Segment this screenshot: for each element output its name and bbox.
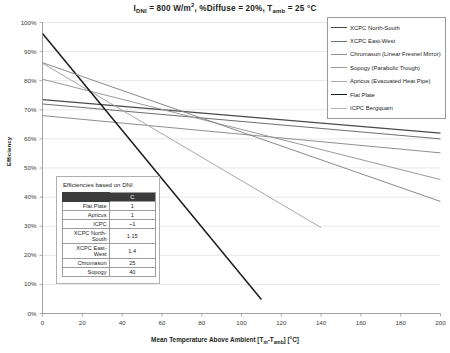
table-cell-concentration: 1.4 [109, 244, 156, 259]
table-cell-concentration: 1 [109, 202, 156, 211]
table-cell-concentration: 25 [109, 259, 156, 268]
table-cell-name: ICPC [63, 220, 110, 229]
legend-line-swatch [331, 108, 347, 109]
y-tick-label: 20% [7, 251, 37, 258]
legend-line-swatch [331, 67, 347, 68]
legend-item-label: ICPC Bergquam [350, 105, 393, 111]
x-tick-label: 40 [107, 319, 137, 326]
table-body: Flat Plate1Apricus1ICPC~1XCPC North-Sout… [63, 202, 156, 277]
table-row: XCPC East-West1.4 [63, 244, 156, 259]
chart-legend: XCPC North-SouthXCPC East-WestChromasun … [327, 17, 446, 119]
y-tick-label: 80% [7, 77, 37, 84]
legend-item-label: Chromasun (Linear Fresnel Mirror) [350, 51, 441, 57]
legend-item[interactable]: ICPC Bergquam [331, 101, 443, 114]
table-header-c: C [109, 193, 156, 202]
legend-line-swatch [331, 41, 347, 42]
y-tick-label: 90% [7, 48, 37, 55]
legend-item-label: XCPC North-South [350, 25, 400, 31]
table-row: XCPC North-South1.15 [63, 229, 156, 244]
xlabel-post: ] [°C] [284, 336, 299, 343]
xlabel-sub-amb: amb [274, 340, 284, 345]
legend-item-label: Apricus (Evacuated Heat Pipe) [350, 78, 431, 84]
x-tick-label: 200 [426, 319, 450, 326]
x-tick-label: 120 [266, 319, 296, 326]
xlabel-pre: Mean Temperature Above Ambient [T [151, 336, 263, 343]
x-tick-label: 0 [28, 319, 58, 326]
table-header-blank [63, 193, 110, 202]
y-tick-label: 30% [7, 222, 37, 229]
legend-item[interactable]: Sopogy (Parabolic Trough) [331, 61, 443, 74]
legend-line-swatch [331, 94, 347, 95]
legend-item[interactable]: Apricus (Evacuated Heat Pipe) [331, 75, 443, 88]
y-tick-label: 40% [7, 193, 37, 200]
table-cell-concentration: 1 [109, 211, 156, 220]
table-head: C [63, 193, 156, 202]
legend-line-swatch [331, 81, 347, 82]
legend-item[interactable]: Flat Plate [331, 88, 443, 101]
table-cell-concentration: 40 [109, 268, 156, 277]
legend-line-swatch [331, 54, 347, 55]
x-axis-label: Mean Temperature Above Ambient [Tm-Tamb]… [0, 336, 450, 345]
table-row: Sopogy40 [63, 268, 156, 277]
table-row: Chromasun25 [63, 259, 156, 268]
y-tick-label: 10% [7, 280, 37, 287]
legend-item-label: Sopogy (Parabolic Trough) [350, 65, 420, 71]
table-header-row: C [63, 193, 156, 202]
x-tick-label: 140 [306, 319, 336, 326]
table-cell-name: Chromasun [63, 259, 110, 268]
x-tick-label: 160 [346, 319, 376, 326]
table-row: Apricus1 [63, 211, 156, 220]
table-cell-concentration: 1.15 [109, 229, 156, 244]
table-row: Flat Plate1 [63, 202, 156, 211]
efficiency-table: C Flat Plate1Apricus1ICPC~1XCPC North-So… [62, 192, 156, 277]
y-tick-label: 100% [7, 19, 37, 26]
y-tick-label: 0% [7, 310, 37, 317]
x-tick-label: 60 [147, 319, 177, 326]
y-axis-label: Efficiency [5, 122, 12, 182]
x-tick-label: 80 [187, 319, 217, 326]
y-tick-label: 70% [7, 106, 37, 113]
table-row: ICPC~1 [63, 220, 156, 229]
table-cell-concentration: ~1 [109, 220, 156, 229]
legend-item-label: XCPC East-West [350, 38, 395, 44]
efficiency-chart: IDNI = 800 W/m2, %Diffuse = 20%, Tamb = … [0, 0, 450, 353]
x-tick-label: 100 [227, 319, 257, 326]
x-tick-label: 20 [67, 319, 97, 326]
legend-item-label: Flat Plate [350, 92, 375, 98]
legend-item[interactable]: Chromasun (Linear Fresnel Mirror) [331, 48, 443, 61]
efficiencies-inset-table: Efficiencies based on DNI C Flat Plate1A… [56, 176, 160, 284]
inset-table-title: Efficiencies based on DNI [62, 181, 154, 188]
table-cell-name: Flat Plate [63, 202, 110, 211]
legend-line-swatch [331, 27, 347, 28]
legend-item[interactable]: XCPC North-South [331, 21, 443, 34]
table-cell-name: XCPC North-South [63, 229, 110, 244]
x-tick-label: 180 [386, 319, 416, 326]
table-cell-name: Apricus [63, 211, 110, 220]
table-cell-name: Sopogy [63, 268, 110, 277]
legend-item[interactable]: XCPC East-West [331, 34, 443, 47]
table-cell-name: XCPC East-West [63, 244, 110, 259]
